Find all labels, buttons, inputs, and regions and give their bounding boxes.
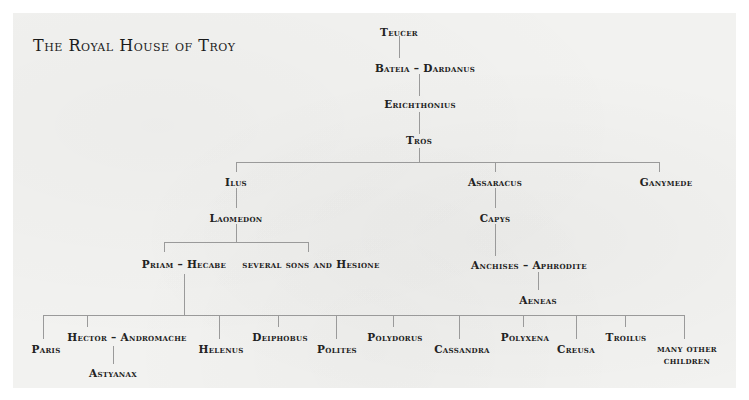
connector (336, 315, 337, 339)
diagram-title: The Royal House of Troy (33, 36, 236, 55)
connector (236, 188, 237, 208)
connector (236, 224, 237, 242)
node-polydorus: Polydorus (367, 331, 422, 343)
node-troilus: Troilus (606, 331, 647, 343)
node-many-other-line2: children (657, 355, 717, 367)
node-paris: Paris (32, 343, 61, 355)
connector (399, 36, 400, 58)
connector (278, 315, 279, 327)
node-assaracus: Assaracus (468, 176, 522, 188)
connector (419, 148, 420, 162)
connector (576, 315, 577, 339)
node-laomedon: Laomedon (210, 212, 263, 224)
connector (43, 315, 44, 339)
node-aeneas: Aeneas (519, 294, 557, 306)
connector (236, 162, 660, 163)
connector (113, 346, 114, 364)
connector (87, 315, 88, 327)
node-deiphobus: Deiphobus (252, 331, 307, 343)
connector (184, 274, 185, 315)
connector (495, 162, 496, 172)
node-hector-andromache: Hector – Andromache (67, 331, 186, 343)
node-erichthonius: Erichthonius (384, 98, 456, 110)
connector (393, 315, 394, 327)
connector (236, 162, 237, 172)
connector (43, 315, 685, 316)
connector (495, 224, 496, 256)
node-teucer: Teucer (380, 26, 418, 38)
node-anchises-aphrodite: Anchises – Aphrodite (471, 259, 587, 271)
node-cassandra: Cassandra (434, 343, 490, 355)
connector (459, 315, 460, 339)
connector (219, 315, 220, 339)
node-priam-hecabe: Priam – Hecabe (142, 258, 226, 270)
connector (625, 315, 626, 327)
connector (523, 315, 524, 327)
node-bateia-dardanus: Bateia – Dardanus (375, 62, 475, 74)
node-polyxena: Polyxena (501, 331, 549, 343)
node-polites: Polites (317, 343, 357, 355)
node-capys: Capys (480, 212, 511, 224)
connector (164, 242, 309, 243)
node-creusa: Creusa (557, 343, 595, 355)
connector (164, 242, 165, 252)
node-tros: Tros (406, 134, 432, 146)
connector (419, 112, 420, 134)
node-many-other-line1: many other (657, 343, 717, 355)
node-astyanax: Astyanax (89, 367, 137, 379)
connector (538, 272, 539, 290)
node-several-sons-hesione: several sons and Hesione (242, 258, 379, 270)
connector (684, 315, 685, 339)
node-helenus: Helenus (198, 343, 243, 355)
connector (659, 162, 660, 172)
node-many-other-children: many other children (657, 343, 717, 367)
node-ilus: Ilus (225, 176, 247, 188)
connector (308, 242, 309, 252)
connector (419, 74, 420, 96)
node-ganymede: Ganymede (640, 176, 693, 188)
connector (495, 188, 496, 208)
